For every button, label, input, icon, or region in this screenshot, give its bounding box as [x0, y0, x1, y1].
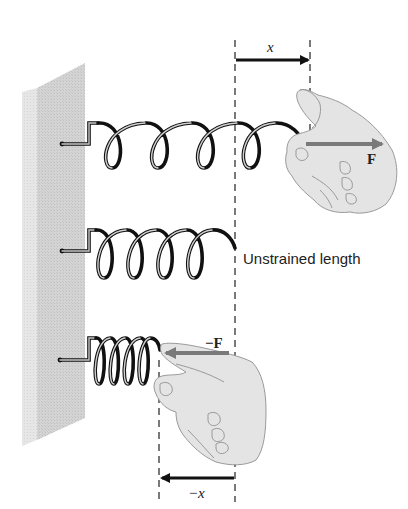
wall — [22, 63, 85, 446]
knuckle-2 — [340, 161, 350, 174]
unstrained-spring — [60, 230, 235, 278]
pulling-hand — [286, 89, 397, 213]
knuckle-2 — [208, 412, 220, 425]
wall-side-face — [22, 88, 37, 446]
unstrained-length-label: Unstrained length — [243, 251, 361, 266]
knuckle-3 — [342, 177, 352, 190]
stretched-spring — [60, 123, 306, 168]
compress-force-label: −F — [205, 336, 223, 351]
knuckle-4 — [346, 193, 356, 204]
knuckle-1 — [160, 382, 172, 395]
knuckle-3 — [212, 428, 224, 441]
stretch-force-label: F — [367, 152, 376, 167]
knuckle-4 — [216, 442, 228, 453]
compress-displacement-label: −x — [188, 486, 205, 501]
pushing-hand — [154, 343, 266, 465]
stretch-displacement-label: x — [267, 40, 274, 55]
knuckle-1 — [296, 148, 308, 161]
hand-outline — [154, 343, 266, 465]
